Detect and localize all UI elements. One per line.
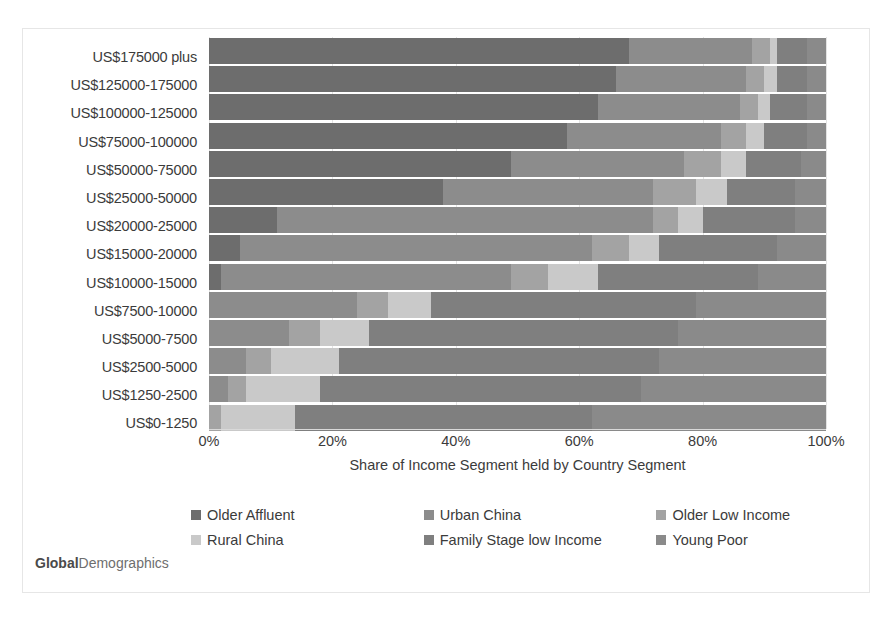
watermark: GlobalDemographics — [35, 555, 169, 571]
bar-segment — [209, 405, 221, 431]
plot-area — [209, 37, 826, 435]
bar-segment — [696, 292, 826, 318]
bar-segment — [807, 94, 826, 120]
category-label: US$175000 plus — [23, 43, 205, 71]
legend-label: Rural China — [207, 532, 284, 548]
legend-swatch-icon — [424, 535, 434, 545]
bar-row — [209, 320, 826, 346]
bar-segment — [209, 123, 567, 149]
bar-segment — [209, 235, 240, 261]
bar-segment — [443, 179, 653, 205]
bar-segment — [548, 264, 597, 290]
legend-row: Rural ChinaFamily Stage low IncomeYoung … — [191, 527, 831, 552]
category-label: US$75000-100000 — [23, 128, 205, 156]
x-tick-label: 40% — [441, 433, 470, 449]
bar-row — [209, 235, 826, 261]
bar-segment — [246, 348, 271, 374]
category-axis-labels: US$175000 plusUS$125000-175000US$100000-… — [23, 43, 205, 438]
category-label: US$20000-25000 — [23, 212, 205, 240]
bar-segment — [758, 264, 826, 290]
bar-segment — [653, 179, 696, 205]
bar-segment — [209, 264, 221, 290]
legend-row: Older AffluentUrban ChinaOlder Low Incom… — [191, 502, 831, 527]
bar-segment — [511, 151, 684, 177]
bar-row — [209, 151, 826, 177]
bar-segment — [209, 292, 357, 318]
bar-segment — [209, 66, 616, 92]
x-tick-label: 80% — [688, 433, 717, 449]
bar-segment — [777, 66, 808, 92]
bar-segment — [209, 320, 289, 346]
bar-segment — [629, 235, 660, 261]
bar-segment — [277, 207, 653, 233]
bar-segment — [746, 123, 765, 149]
bar-row — [209, 38, 826, 64]
legend-item[interactable]: Older Affluent — [191, 507, 424, 523]
bar-segment — [209, 376, 228, 402]
bar-segment — [221, 264, 511, 290]
gridline — [826, 37, 827, 429]
bar-segment — [721, 151, 746, 177]
x-axis-title: Share of Income Segment held by Country … — [209, 457, 826, 473]
bar-segment — [721, 123, 746, 149]
bar-segment — [777, 235, 826, 261]
legend-swatch-icon — [191, 510, 201, 520]
bar-row — [209, 292, 826, 318]
bar-segment — [431, 292, 696, 318]
legend-item[interactable]: Urban China — [424, 507, 657, 523]
legend-item[interactable]: Older Low Income — [656, 507, 831, 523]
legend-label: Older Low Income — [672, 507, 790, 523]
x-tick-label: 60% — [565, 433, 594, 449]
bar-segment — [209, 94, 598, 120]
bar-segment — [228, 376, 247, 402]
bar-segment — [684, 151, 721, 177]
bar-segment — [807, 123, 826, 149]
category-label: US$10000-15000 — [23, 269, 205, 297]
bar-segment — [678, 320, 826, 346]
bar-segment — [777, 38, 808, 64]
bar-row — [209, 405, 826, 431]
category-label: US$50000-75000 — [23, 156, 205, 184]
bar-row — [209, 179, 826, 205]
bar-row — [209, 376, 826, 402]
bar-segment — [295, 405, 591, 431]
bar-segment — [641, 376, 826, 402]
watermark-bold: Global — [35, 555, 79, 571]
bar-segment — [764, 66, 776, 92]
bar-segment — [209, 207, 277, 233]
legend-label: Family Stage low Income — [440, 532, 602, 548]
category-label: US$100000-125000 — [23, 99, 205, 127]
category-label: US$15000-20000 — [23, 240, 205, 268]
bar-segment — [598, 264, 758, 290]
legend-item[interactable]: Rural China — [191, 532, 424, 548]
bar-segment — [592, 235, 629, 261]
bar-row — [209, 123, 826, 149]
bar-row — [209, 207, 826, 233]
category-label: US$5000-7500 — [23, 325, 205, 353]
bar-segment — [703, 207, 796, 233]
x-axis-line — [209, 429, 826, 430]
legend-swatch-icon — [656, 535, 666, 545]
bar-segment — [369, 320, 678, 346]
bar-segment — [221, 405, 295, 431]
bar-segment — [209, 348, 246, 374]
bar-segment — [807, 38, 826, 64]
bar-segment — [511, 264, 548, 290]
chart-legend: Older AffluentUrban ChinaOlder Low Incom… — [191, 502, 831, 552]
bar-segment — [740, 94, 759, 120]
bar-segment — [567, 123, 721, 149]
bar-segment — [659, 348, 826, 374]
bar-segment — [770, 94, 807, 120]
bar-segment — [320, 376, 641, 402]
legend-item[interactable]: Family Stage low Income — [424, 532, 657, 548]
bar-segment — [659, 235, 776, 261]
chart-frame: US$175000 plusUS$125000-175000US$100000-… — [22, 28, 870, 593]
legend-label: Older Affluent — [207, 507, 295, 523]
legend-item[interactable]: Young Poor — [656, 532, 831, 548]
bar-segment — [246, 376, 320, 402]
legend-label: Urban China — [440, 507, 521, 523]
bar-segment — [801, 151, 826, 177]
category-label: US$1250-2500 — [23, 381, 205, 409]
bar-row — [209, 348, 826, 374]
bar-segment — [592, 405, 826, 431]
